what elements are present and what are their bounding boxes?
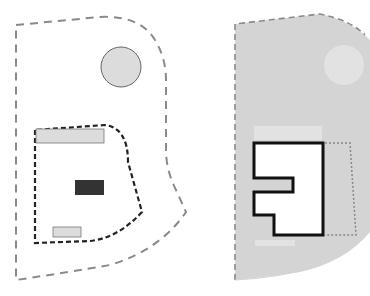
panel-existing-site xyxy=(16,17,186,280)
rect-dark-center xyxy=(75,180,104,195)
panel-proposed-site xyxy=(235,14,370,280)
site-plan-diagram xyxy=(0,0,370,296)
faded-rect-top xyxy=(254,126,322,140)
site-boundary xyxy=(16,17,186,280)
rect-light-top xyxy=(36,129,104,143)
faded-circle xyxy=(324,45,364,85)
rect-light-bottom xyxy=(53,227,81,237)
faded-rect-bottom xyxy=(255,240,295,246)
circle-feature xyxy=(101,47,141,87)
